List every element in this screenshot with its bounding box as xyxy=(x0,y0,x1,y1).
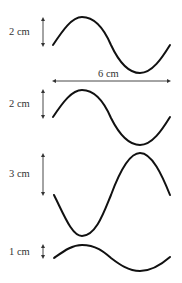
wave-4-amplitude-label: 1 cm xyxy=(9,246,30,257)
wave-4-amplitude-arrow-icon xyxy=(41,244,45,259)
wave-1-amplitude-arrow-icon xyxy=(41,17,45,47)
wave-3-curve xyxy=(54,153,170,236)
wave-2-curve xyxy=(53,90,170,145)
wave-diagram: 2 cm 6 cm 2 cm 3 cm xyxy=(0,0,182,283)
wave-3-amplitude-arrow-icon xyxy=(41,153,45,196)
wave-1-curve xyxy=(53,17,170,73)
wave-4-curve xyxy=(54,245,170,271)
wave-1-amplitude-label: 2 cm xyxy=(9,26,30,37)
wave-2-amplitude-label: 2 cm xyxy=(9,98,30,109)
wave-1-group: 2 cm 6 cm xyxy=(9,17,171,83)
wave-2-amplitude-arrow-icon xyxy=(41,89,45,119)
wave-3-amplitude-label: 3 cm xyxy=(9,168,30,179)
wave-4-group: 1 cm xyxy=(9,244,170,271)
wave-3-group: 3 cm xyxy=(9,153,170,236)
wave-2-group: 2 cm xyxy=(9,89,170,145)
wavelength-label: 6 cm xyxy=(98,68,119,79)
wavelength-arrow-icon xyxy=(52,79,171,83)
